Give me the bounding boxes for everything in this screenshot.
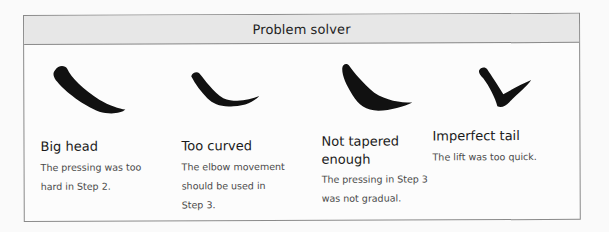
panel-title: Problem solver — [252, 21, 350, 36]
brush-stroke-not-tapered-icon — [340, 62, 415, 117]
item-title: Not tapered enough — [321, 133, 399, 169]
brush-stroke-too-curved-icon — [189, 70, 264, 115]
brush-stroke-big-head-icon — [49, 64, 129, 119]
item-description: The elbow movement should be used in Ste… — [182, 157, 285, 214]
item-description: The lift was too quick. — [433, 147, 537, 166]
item-title: Too curved — [181, 137, 252, 155]
brush-stroke-imperfect-tail-icon — [477, 66, 537, 116]
panel-header: Problem solver — [24, 14, 579, 45]
item-title: Imperfect tail — [432, 127, 519, 145]
item-description: The pressing in Step 3 was not gradual. — [322, 169, 428, 207]
item-description: The pressing was too hard in Step 2. — [41, 158, 142, 196]
problem-solver-panel: Problem solver Big head The pressing was… — [23, 13, 581, 222]
item-title: Big head — [40, 138, 97, 156]
